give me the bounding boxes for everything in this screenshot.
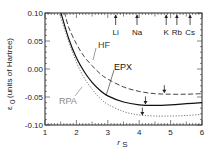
epx-leader-line bbox=[106, 70, 114, 96]
y-axis-sub: 0 bbox=[8, 99, 17, 104]
rpa-leader-line bbox=[75, 87, 82, 96]
arrowhead-icon bbox=[114, 15, 118, 19]
chart: 123456 0.100.050.00-0.05-0.10 LiNaKRbCs … bbox=[0, 0, 212, 148]
arrowhead-icon bbox=[188, 15, 192, 19]
label-hf: HF bbox=[98, 40, 110, 50]
arrowhead-icon bbox=[135, 15, 139, 19]
arrowhead-icon bbox=[143, 101, 147, 105]
minimum-markers bbox=[140, 85, 166, 115]
x-tick-label: 4 bbox=[137, 128, 142, 137]
arrowhead-icon bbox=[140, 112, 144, 116]
x-tick-label: 6 bbox=[200, 128, 205, 137]
y-tick-label: -0.05 bbox=[25, 93, 44, 102]
annotation-label-rb: Rb bbox=[172, 28, 183, 37]
label-rpa: RPA bbox=[59, 96, 77, 106]
y-axis-title: ε0(units of Hartree) bbox=[5, 38, 17, 110]
x-axis-title-sub: S bbox=[122, 140, 127, 148]
annotation-label-na: Na bbox=[132, 28, 143, 37]
x-tick-label: 3 bbox=[106, 128, 111, 137]
curve-labels: HFEPXRPA bbox=[59, 40, 132, 106]
annotation-label-cs: Cs bbox=[185, 28, 195, 37]
x-tick-label: 5 bbox=[168, 128, 173, 137]
element-annotations: LiNaKRbCs bbox=[113, 15, 195, 38]
label-epx: EPX bbox=[114, 62, 132, 72]
x-tick-label: 1 bbox=[43, 128, 48, 137]
annotation-label-li: Li bbox=[113, 28, 119, 37]
x-axis-title: r bbox=[117, 138, 120, 147]
hf-leader-line bbox=[93, 48, 96, 60]
y-tick-label: 0.05 bbox=[27, 37, 43, 46]
y-tick-label: 0.00 bbox=[27, 65, 43, 74]
arrowhead-icon bbox=[164, 15, 168, 19]
curve-hf bbox=[64, 12, 202, 94]
annotation-label-k: K bbox=[164, 28, 170, 37]
y-tick-label: 0.10 bbox=[27, 9, 43, 18]
arrowhead-icon bbox=[162, 90, 166, 94]
curve-epx bbox=[61, 12, 202, 106]
x-tick-label: 2 bbox=[74, 128, 79, 137]
y-tick-label: -0.10 bbox=[25, 121, 44, 130]
arrowhead-icon bbox=[175, 15, 179, 19]
y-axis-units: (units of Hartree) bbox=[5, 38, 14, 98]
y-axis-symbol: ε bbox=[5, 106, 14, 110]
